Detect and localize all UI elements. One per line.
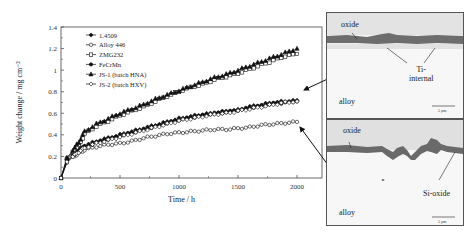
legend-entry: JS-2 (batch HXV) [99, 81, 146, 89]
x-tick-label: 500 [115, 183, 126, 191]
x-tick-label: 1000 [172, 183, 187, 191]
legend-entry: ZMG232 [99, 51, 123, 58]
y-tick-label: 1 [54, 67, 58, 75]
legend: 1.4509Alloy 446ZMG232FeCrMnJS-1 (batch H… [86, 32, 146, 89]
series-js-2-batch-hxv- [59, 99, 299, 180]
x-axis-label: Time / h [168, 195, 195, 204]
y-tick-label: 0.8 [48, 88, 57, 96]
internal-oxidation-label: Ti- internal [409, 65, 433, 83]
y-tick-label: 1.2 [48, 45, 57, 53]
scale-bar-label: 5 µm [438, 108, 446, 113]
si-oxide-label: Si-oxide [423, 189, 450, 198]
legend-entry: JS-1 (batch HNA) [99, 71, 146, 79]
series-1-4509 [59, 98, 299, 180]
y-tick-label: 1.4 [48, 24, 57, 32]
y-tick-label: 0.6 [48, 110, 57, 118]
x-tick-label: 1500 [231, 183, 246, 191]
x-tick-label: 2000 [290, 183, 305, 191]
legend-entry: FeCrMn [99, 61, 122, 68]
alloy-label: alloy [339, 97, 355, 106]
scale-bar-label: 5 µm [438, 219, 446, 224]
legend-entry: 1.4509 [99, 32, 117, 39]
y-axis-label: Weight change / mg cm⁻² [15, 61, 24, 144]
series-js-1-batch-hna- [59, 46, 299, 179]
micrograph-top: oxide Ti- internal alloy 5 µm [326, 12, 464, 119]
oxide-label: oxide [343, 126, 361, 135]
legend-entry: Alloy 446 [99, 41, 126, 48]
x-tick-label: 0 [59, 183, 63, 191]
y-tick-label: 0.2 [48, 153, 57, 161]
y-tick-label: 0.4 [48, 131, 57, 139]
series-fecrmn [59, 100, 298, 180]
micrograph-bottom: oxide Si-oxide alloy 5 µm [326, 119, 464, 226]
y-tick-label: 0 [54, 175, 58, 183]
arrow-to-alloy446 [300, 127, 328, 165]
alloy-label: alloy [339, 208, 355, 217]
oxide-label: oxide [341, 20, 359, 29]
